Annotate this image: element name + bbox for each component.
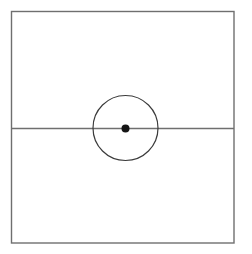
geometric-figure xyxy=(0,0,252,254)
figure-canvas xyxy=(0,0,252,254)
center-point-dot xyxy=(122,125,130,133)
